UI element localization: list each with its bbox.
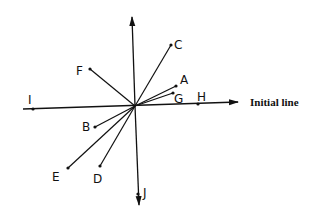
ray-e	[68, 106, 135, 168]
ray-f	[90, 69, 135, 106]
rays: ABCDEFGHIJ	[28, 38, 206, 200]
label-b: B	[82, 120, 90, 134]
point-d	[98, 164, 101, 167]
point-f	[88, 67, 91, 70]
point-e	[66, 166, 69, 169]
vertical-axis-down	[135, 106, 139, 205]
label-d: D	[93, 172, 102, 186]
point-b	[93, 125, 96, 128]
label-a: A	[180, 73, 189, 87]
point-a	[174, 84, 177, 87]
label-e: E	[52, 170, 60, 184]
label-i: I	[28, 93, 32, 107]
label-c: C	[174, 38, 182, 52]
label-h: H	[197, 90, 206, 104]
point-i	[31, 107, 34, 110]
point-c	[169, 43, 172, 46]
initial-line-caption: Initial line	[250, 96, 299, 108]
polar-diagram: ABCDEFGHIJ Initial line	[0, 0, 323, 211]
point-j	[136, 192, 139, 195]
vertical-axis-up	[132, 17, 135, 106]
label-j: J	[142, 186, 147, 200]
label-f: F	[76, 64, 83, 78]
label-g: G	[174, 92, 183, 106]
